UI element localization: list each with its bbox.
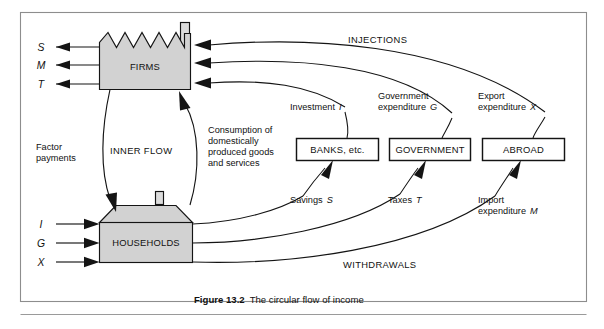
- injection-label-2-line1: Export: [478, 91, 505, 101]
- firms-outflow-arrows: [56, 42, 100, 88]
- arrowhead-savings-out: [56, 42, 70, 51]
- consumption-label-line1: Consumption of: [208, 125, 273, 135]
- export-stem: [533, 117, 545, 138]
- import-withdrawal-arc: [193, 196, 496, 262]
- banks-label: BANKS, etc.: [310, 144, 364, 155]
- firms-outflow-symbol-1: M: [37, 60, 46, 71]
- households-inflow-arrows: [56, 219, 100, 267]
- import-stem: [495, 168, 513, 196]
- consumption-label-line2: domestically: [208, 136, 259, 146]
- firms-outflow-symbol-2: T: [38, 79, 45, 90]
- households-inflow-symbol-2: X: [37, 257, 46, 268]
- arrowhead-imports-out: [56, 60, 70, 69]
- government-stem: [442, 118, 452, 138]
- savings-stem: [303, 168, 325, 196]
- injection-label-0-line1: InvestmentI: [290, 102, 342, 112]
- withdrawal-label-2-line2: expenditureM: [478, 206, 538, 216]
- taxes-stem: [400, 168, 418, 194]
- injections-label: INJECTIONS: [348, 34, 407, 45]
- households-inflow-symbol-0: I: [40, 219, 43, 230]
- injection-label-2-line2: expenditureX: [478, 102, 537, 112]
- withdrawals-label: WITHDRAWALS: [343, 259, 416, 270]
- factor-payments-label-line1: Factor: [36, 142, 62, 152]
- investment-stem: [345, 112, 348, 138]
- figure-page: FIRMS HOUSEHOLDS BANKS, etc. GOVERNMENT …: [0, 0, 604, 329]
- savings-withdrawal-arc: [193, 196, 304, 224]
- abroad-label: ABROAD: [503, 144, 544, 155]
- arrowhead-government-injection: [194, 57, 211, 68]
- withdrawal-label-0-line1: SavingsS: [290, 195, 334, 205]
- consumption-label-line3: produced goods: [208, 147, 274, 157]
- withdrawal-label-1-line1: TaxesT: [388, 195, 423, 205]
- arrowhead-investment-injection: [194, 77, 211, 88]
- arrowhead-factor-payments: [106, 193, 118, 213]
- circular-flow-diagram: FIRMS HOUSEHOLDS BANKS, etc. GOVERNMENT …: [0, 0, 604, 329]
- arrowhead-government-in: [84, 238, 100, 248]
- firms-label: FIRMS: [130, 61, 160, 72]
- arrowhead-investment-in: [84, 219, 100, 229]
- withdrawal-label-2-line1: Import: [478, 195, 504, 205]
- households-inflow-symbol-1: G: [37, 238, 45, 249]
- inner-flow-label: INNER FLOW: [110, 145, 172, 156]
- arrowhead-taxes-out: [56, 79, 70, 88]
- arrowhead-exports-in: [84, 257, 100, 267]
- factor-payments-label-line2: payments: [36, 153, 76, 163]
- injection-label-1-line2: expenditureG: [378, 102, 437, 112]
- arrowhead-savings-withdrawal: [321, 160, 333, 179]
- households-label: HOUSEHOLDS: [112, 237, 180, 248]
- arrowhead-import-withdrawal: [509, 160, 521, 179]
- firms-outflow-symbol-0: S: [38, 42, 45, 53]
- households-roof: [100, 206, 193, 223]
- arrowhead-export-injection: [194, 39, 211, 50]
- government-label: GOVERNMENT: [395, 144, 464, 155]
- consumption-label-line4: and services: [208, 158, 260, 168]
- arrowhead-taxes-withdrawal: [414, 160, 426, 179]
- injection-label-1-line1: Government: [378, 91, 429, 101]
- figure-caption: Figure 13.2The circular flow of income: [194, 294, 364, 305]
- households-chimney-icon: [156, 192, 164, 205]
- consumption-flow: [179, 91, 197, 205]
- arrowhead-consumption: [179, 91, 191, 111]
